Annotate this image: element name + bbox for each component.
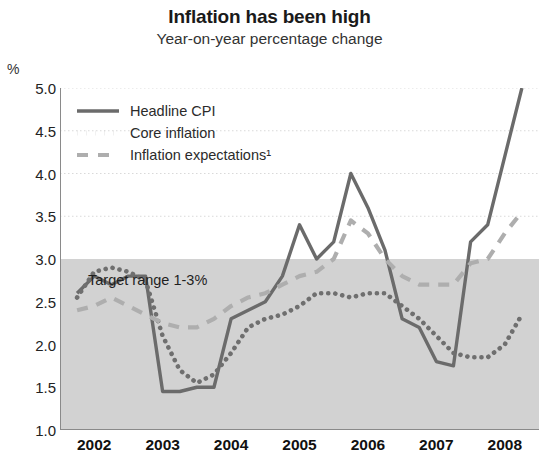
legend-item-label: Inflation expectations¹ (130, 147, 271, 163)
y-axis-tick-label: 4.5 (10, 122, 56, 139)
y-axis-tick-label: 5.0 (10, 80, 56, 97)
y-axis-tick-labels: 1.01.52.02.53.03.54.04.55.0 (0, 88, 56, 430)
x-axis-tick-label: 2005 (282, 436, 316, 454)
y-axis-tick-label: 3.5 (10, 208, 56, 225)
y-axis-tick-label: 4.0 (10, 165, 56, 182)
legend-item: Core inflation (76, 122, 356, 144)
legend-item: Headline CPI (76, 100, 356, 122)
legend-item: Inflation expectations¹ (76, 144, 356, 166)
x-axis-tick-label: 2007 (419, 436, 453, 454)
legend-swatch-dashed-icon (76, 148, 120, 162)
x-axis-tick-label: 2003 (145, 436, 179, 454)
target-range-annotation: Target range 1-3% (88, 272, 207, 288)
chart-figure: Inflation has been high Year-on-year per… (0, 0, 539, 474)
y-axis-tick-label: 1.0 (10, 422, 56, 439)
y-axis-tick-label: 1.5 (10, 379, 56, 396)
y-axis-tick-label: 3.0 (10, 251, 56, 268)
chart-legend: Headline CPICore inflationInflation expe… (76, 100, 356, 166)
chart-title: Inflation has been high (0, 6, 539, 28)
legend-swatch-dotted-icon (76, 126, 120, 140)
x-axis-tick-label: 2002 (77, 436, 111, 454)
y-axis-unit-label: % (7, 61, 19, 77)
y-axis-tick-label: 2.5 (10, 293, 56, 310)
x-axis-tick-label: 2004 (214, 436, 248, 454)
y-axis-tick-label: 2.0 (10, 336, 56, 353)
legend-swatch-solid-icon (76, 104, 120, 118)
legend-item-label: Core inflation (130, 125, 215, 141)
chart-subtitle: Year-on-year percentage change (0, 30, 539, 48)
x-axis-tick-label: 2006 (351, 436, 385, 454)
legend-item-label: Headline CPI (130, 103, 215, 119)
x-axis-tick-label: 2008 (488, 436, 522, 454)
